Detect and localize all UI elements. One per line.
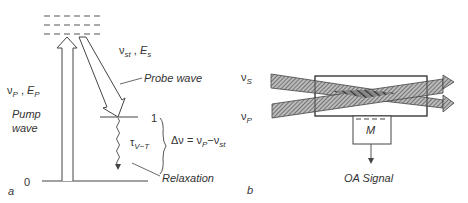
panel-b-label: b [247,184,253,196]
stokes-frequency-label: νst , Es [119,44,151,59]
microphone-label: M [366,124,375,136]
pump-wave-label-1: Pump [12,108,41,120]
virtual-levels [44,16,102,34]
panel-a-label: a [8,185,14,197]
diagram-canvas [0,0,468,203]
oa-signal-label: OA Signal [344,172,393,184]
beam-p-label: νP [241,110,252,125]
delta-nu-label: Δν = νP−νst [171,134,225,149]
probe-wave-label: Probe wave [144,72,202,84]
tau-label: τV−T [130,136,149,151]
beam-p-head [443,75,454,89]
brace [160,118,166,174]
relaxation-wave [117,118,120,166]
pump-arrow [57,37,77,181]
relaxation-label: Relaxation [162,172,214,184]
level-0-label: 0 [24,176,30,188]
beam-s-head [443,95,454,112]
pump-wave-label-2: wave [12,122,38,134]
pump-frequency-label: νP , EP [7,84,40,99]
relaxation-arrowhead [115,164,121,170]
level-1-label: 1 [151,112,157,124]
beam-s-label: νS [241,71,252,86]
